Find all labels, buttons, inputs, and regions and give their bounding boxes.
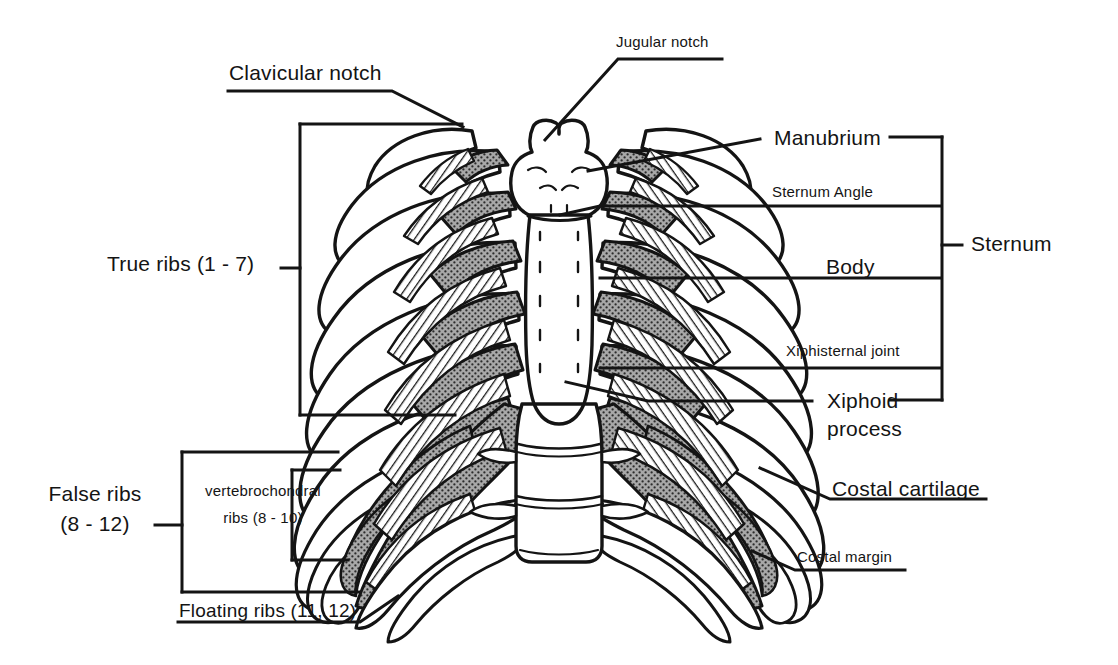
label-xiphisternal-joint[interactable]: Xiphisternal joint bbox=[786, 343, 900, 360]
label-false-ribs-line1[interactable]: False ribs bbox=[36, 482, 154, 506]
ribcage-illustration bbox=[0, 0, 1118, 665]
label-xiphoid-process-line2[interactable]: process bbox=[827, 417, 902, 441]
label-false-ribs-line2[interactable]: (8 - 12) bbox=[36, 512, 154, 536]
label-xiphoid-process-line1[interactable]: Xiphoid bbox=[827, 389, 898, 413]
label-sternum[interactable]: Sternum bbox=[971, 232, 1052, 256]
label-true-ribs[interactable]: True ribs (1 - 7) bbox=[107, 252, 254, 276]
diagram-canvas: Jugular notch Clavicular notch Manubrium… bbox=[0, 0, 1118, 665]
xiphoid-shape bbox=[516, 404, 602, 562]
sternum-body-shape bbox=[526, 215, 593, 404]
label-jugular-notch[interactable]: Jugular notch bbox=[616, 34, 709, 51]
label-vertebrochondral-line2[interactable]: ribs (8 - 10) bbox=[188, 510, 338, 527]
label-manubrium[interactable]: Manubrium bbox=[774, 126, 881, 150]
label-costal-cartilage[interactable]: Costal cartilage bbox=[832, 477, 980, 501]
label-clavicular-notch[interactable]: Clavicular notch bbox=[229, 61, 382, 85]
label-floating-ribs[interactable]: Floating ribs (11, 12) bbox=[179, 600, 356, 621]
label-sternum-angle[interactable]: Sternum Angle bbox=[772, 184, 873, 201]
label-body[interactable]: Body bbox=[826, 255, 875, 279]
sternum bbox=[511, 120, 608, 562]
label-vertebrochondral-line1[interactable]: vertebrochondral bbox=[188, 483, 338, 500]
label-costal-margin[interactable]: Costal margin bbox=[797, 549, 892, 566]
